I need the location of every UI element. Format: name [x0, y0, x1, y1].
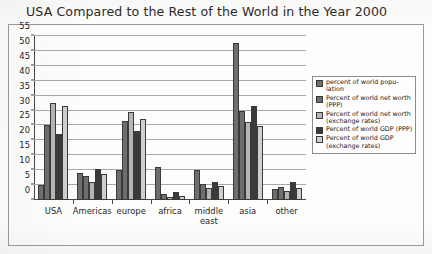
legend-swatch — [316, 136, 323, 143]
legend-item: Percent of world net worth (exchange rat… — [315, 111, 413, 126]
y-axis-tick-label: 55 — [19, 21, 30, 31]
bar-groups: USAAmericaseuropeafricamiddle eastasiaot… — [34, 36, 306, 200]
bar — [296, 188, 302, 200]
legend-swatch — [316, 96, 323, 103]
chart-title: USA Compared to the Rest of the World in… — [26, 4, 416, 19]
bar-group: USA — [34, 36, 73, 200]
legend-swatch — [316, 112, 323, 119]
x-axis-tick-label: africa — [158, 207, 182, 217]
x-axis-tick — [189, 200, 190, 204]
x-axis-tick-label: middle east — [195, 207, 224, 226]
chart-legend: percent of world popu- lationPercent of … — [312, 76, 416, 154]
legend-item: Percent of world GDP (exchange rates) — [315, 135, 413, 150]
bar-group: other — [267, 36, 306, 200]
x-axis-tick-label: europe — [116, 207, 145, 217]
bar — [179, 196, 185, 200]
bar — [140, 119, 146, 200]
y-axis-tick-label: 15 — [19, 140, 30, 150]
y-axis-tick-label: 50 — [19, 36, 30, 46]
y-axis-tick-label: 40 — [19, 66, 30, 76]
bar — [62, 106, 68, 200]
y-axis-tick-label: 25 — [19, 110, 30, 120]
x-axis-tick-label: Americas — [73, 207, 112, 217]
legend-label: Percent of world GDP (exchange rates) — [326, 135, 394, 150]
chart-page: USA Compared to the Rest of the World in… — [0, 0, 432, 254]
x-axis-tick — [112, 200, 113, 204]
y-axis-tick-label: 5 — [25, 170, 30, 180]
legend-swatch — [316, 80, 323, 87]
bar-group: asia — [228, 36, 267, 200]
bar — [218, 186, 224, 200]
bar — [101, 174, 107, 200]
legend-item: Percent of world net worth (PPP) — [315, 95, 413, 110]
bar-group: africa — [151, 36, 190, 200]
legend-label: Percent of world GDP (PPP) — [326, 126, 412, 133]
bar-group: europe — [112, 36, 151, 200]
x-axis-tick-label: asia — [239, 207, 256, 217]
legend-label: percent of world popu- lation — [326, 79, 399, 94]
legend-label: Percent of world net worth (exchange rat… — [326, 111, 411, 126]
x-axis-tick — [267, 200, 268, 204]
x-axis-tick — [151, 200, 152, 204]
plot-area: 0510152025303540455055 USAAmericaseurope… — [34, 36, 306, 200]
y-axis-tick-label: 45 — [19, 51, 30, 61]
x-axis-tick — [73, 200, 74, 204]
bar-group: middle east — [189, 36, 228, 200]
y-axis-tick-label: 0 — [25, 185, 30, 195]
bar — [257, 126, 263, 200]
x-axis-tick — [228, 200, 229, 204]
x-axis-tick-label: USA — [45, 207, 62, 217]
legend-swatch — [316, 127, 323, 134]
bar-group: Americas — [73, 36, 112, 200]
x-axis-tick-label: other — [275, 207, 297, 217]
y-axis-tick-label: 35 — [19, 81, 30, 91]
legend-label: Percent of world net worth (PPP) — [326, 95, 411, 110]
y-axis-tick-label: 20 — [19, 125, 30, 135]
y-axis-tick-label: 10 — [19, 155, 30, 165]
legend-item: Percent of world GDP (PPP) — [315, 126, 413, 134]
legend-item: percent of world popu- lation — [315, 79, 413, 94]
y-axis-tick-label: 30 — [19, 96, 30, 106]
